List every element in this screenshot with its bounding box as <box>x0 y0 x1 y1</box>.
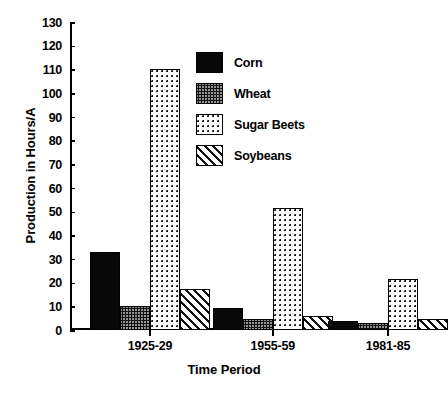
y-tick-20: 20 <box>49 274 70 292</box>
y-tick-label: 30 <box>49 253 62 267</box>
y-tick-label: 120 <box>42 39 62 53</box>
y-tick-70: 70 <box>49 155 70 173</box>
y-tick-mark <box>70 306 75 308</box>
y-tick-label: 70 <box>49 158 62 172</box>
y-tick-label: 40 <box>49 229 62 243</box>
chart-legend: CornWheatSugar BeetsSoybeans <box>196 52 305 176</box>
y-tick-100: 100 <box>42 84 70 102</box>
legend-item-wheat: Wheat <box>196 83 305 104</box>
y-tick-mark <box>70 22 75 24</box>
y-tick-110: 110 <box>43 60 70 78</box>
y-tick-90: 90 <box>49 108 70 126</box>
x-tick-label-1955-59: 1955-59 <box>250 339 294 353</box>
y-tick-mark <box>70 283 75 285</box>
y-tick-40: 40 <box>49 226 70 244</box>
bar-sugar-beets-1955-59 <box>273 208 303 330</box>
y-tick-label: 50 <box>49 205 62 219</box>
y-tick-label: 80 <box>49 134 62 148</box>
x-tick-mark-1981-85 <box>387 330 389 336</box>
y-tick-mark <box>70 188 75 190</box>
y-tick-0: 0 <box>55 321 70 339</box>
y-tick-label: 100 <box>42 87 62 101</box>
legend-label: Soybeans <box>234 149 291 163</box>
x-tick-label-1925-29: 1925-29 <box>128 339 172 353</box>
legend-item-corn: Corn <box>196 52 305 73</box>
y-tick-10: 10 <box>49 297 70 315</box>
y-tick-mark <box>70 69 75 71</box>
y-tick-label: 130 <box>42 16 62 30</box>
y-tick-30: 30 <box>49 250 70 268</box>
legend-label: Sugar Beets <box>234 118 305 132</box>
y-tick-mark <box>70 235 75 237</box>
bar-wheat-1981-85 <box>358 323 388 330</box>
bar-corn-1955-59 <box>213 308 243 331</box>
y-tick-label: 60 <box>49 182 62 196</box>
y-tick-mark <box>70 117 75 119</box>
y-axis-title: Production in Hours/A <box>23 61 38 291</box>
legend-swatch-sparse-dots <box>196 114 223 135</box>
legend-swatch-solid-black <box>196 52 223 73</box>
x-tick-label-1981-85: 1981-85 <box>366 339 410 353</box>
y-tick-label: 0 <box>55 324 62 338</box>
legend-swatch-dense-crosshatch <box>196 83 223 104</box>
y-tick-label: 110 <box>43 63 62 77</box>
bar-wheat-1925-29 <box>120 306 150 330</box>
y-tick-mark <box>70 93 75 95</box>
y-tick-label: 10 <box>49 300 62 314</box>
y-tick-mark <box>70 330 75 332</box>
legend-label: Wheat <box>234 87 271 101</box>
bar-chart: Production in Hours/A 010203040506070809… <box>0 0 448 395</box>
y-tick-mark <box>70 140 75 142</box>
bar-sugar-beets-1981-85 <box>388 279 418 330</box>
legend-swatch-diagonal-hatch <box>196 145 223 166</box>
bar-group-1925-29: 1925-29 <box>90 69 210 330</box>
bar-corn-1981-85 <box>328 321 358 330</box>
legend-label: Corn <box>234 56 262 70</box>
bar-wheat-1955-59 <box>243 319 273 330</box>
bar-corn-1925-29 <box>90 252 120 330</box>
bar-soybeans-1925-29 <box>180 289 210 330</box>
x-tick-mark-1955-59 <box>272 330 274 336</box>
y-tick-50: 50 <box>49 203 70 221</box>
bar-sugar-beets-1925-29 <box>150 69 180 330</box>
y-tick-mark <box>70 259 75 261</box>
y-tick-mark <box>70 212 75 214</box>
bar-soybeans-1981-85 <box>418 319 448 330</box>
bar-group-1955-59: 1955-59 <box>213 208 333 330</box>
y-tick-mark <box>70 46 75 48</box>
y-tick-120: 120 <box>42 37 70 55</box>
y-tick-label: 90 <box>49 111 62 125</box>
y-tick-mark <box>70 164 75 166</box>
y-tick-label: 20 <box>49 276 62 290</box>
y-tick-80: 80 <box>49 131 70 149</box>
bar-group-1981-85: 1981-85 <box>328 279 448 330</box>
x-axis-title: Time Period <box>0 362 448 377</box>
y-tick-130: 130 <box>42 13 70 31</box>
legend-item-sugar-beets: Sugar Beets <box>196 114 305 135</box>
legend-item-soybeans: Soybeans <box>196 145 305 166</box>
x-tick-mark-1925-29 <box>149 330 151 336</box>
y-tick-60: 60 <box>49 179 70 197</box>
